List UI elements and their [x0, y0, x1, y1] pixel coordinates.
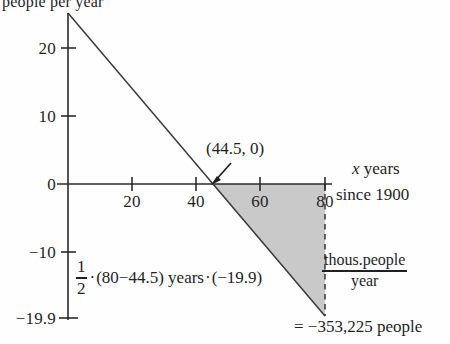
y-tick-label-20: 20 — [8, 40, 56, 57]
x-axis-title-line1: x years — [352, 160, 400, 177]
intercept-point-label: (44.5, 0) — [206, 140, 264, 157]
result-equation: = −353,225 people — [294, 318, 422, 335]
y-tick-label-neg10: −10 — [2, 244, 56, 261]
x-axis-title-variable: x — [352, 159, 360, 178]
y-tick-label-10: 10 — [8, 108, 56, 125]
multiplication-dot-1: · — [89, 269, 97, 286]
x-tick-label-40: 40 — [176, 193, 216, 210]
one-half-fraction: 1 2 — [76, 258, 87, 298]
x-tick-label-20: 20 — [112, 193, 152, 210]
figure-container: people per year 20 10 0 −10 −19.9 20 40 … — [0, 0, 450, 344]
years-term: (80−44.5) years — [96, 269, 204, 286]
x-tick-label-60: 60 — [240, 193, 280, 210]
units-denominator: year — [349, 273, 381, 290]
units-fraction-stack: thous.people year — [322, 252, 407, 290]
units-fraction: thous.people year — [320, 252, 409, 290]
y-tick-label-0: 0 — [8, 176, 56, 193]
multiplication-dot-2: · — [204, 269, 212, 286]
intercept-arrow-icon — [211, 163, 231, 185]
x-axis-title-units: years — [360, 159, 400, 178]
y-tick-label-neg19-9: −19.9 — [0, 310, 56, 327]
area-formula: 1 2 · (80−44.5) years · (−19.9) — [74, 258, 262, 298]
y-axis-caption: people per year — [2, 0, 104, 10]
one-half-denominator: 2 — [76, 280, 87, 298]
x-axis-title-line2: since 1900 — [336, 186, 409, 203]
rate-term: (−19.9) — [212, 269, 263, 286]
one-half-numerator: 1 — [76, 258, 87, 276]
units-numerator: thous.people — [322, 252, 407, 269]
